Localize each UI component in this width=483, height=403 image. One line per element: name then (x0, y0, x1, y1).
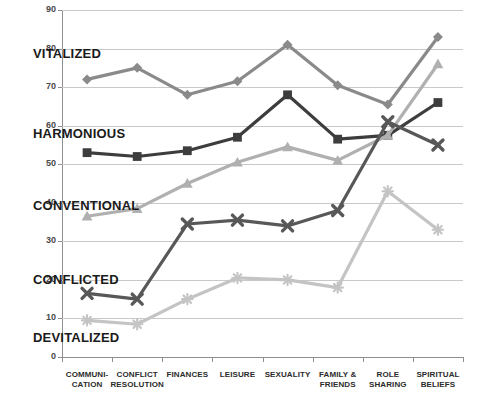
y-tick-label-90: 90 (0, 4, 56, 14)
x-tick-mark-8 (463, 357, 464, 362)
gridline-70 (62, 87, 463, 88)
x-tick-mark-2 (162, 357, 163, 362)
x-axis-label-7: SPIRITUALBELIEFS (402, 370, 474, 390)
gridline-30 (62, 241, 463, 242)
y-tick-label-50: 50 (0, 158, 56, 168)
y-tick-label-70: 70 (0, 81, 56, 91)
gridline-90 (62, 10, 463, 11)
y-axis-line (62, 10, 63, 357)
x-tick-mark-0 (62, 357, 63, 362)
y-tick-mark-30 (58, 241, 62, 242)
y-tick-label-10: 10 (0, 312, 56, 322)
gridline-20 (62, 280, 463, 281)
series-label-harmonious: HARMONIOUS (33, 126, 125, 141)
gridline-10 (62, 318, 463, 319)
x-tick-mark-4 (263, 357, 264, 362)
series-label-conflicted: CONFLICTED (33, 272, 119, 287)
gridline-50 (62, 164, 463, 165)
y-tick-mark-10 (58, 318, 62, 319)
x-tick-mark-6 (363, 357, 364, 362)
y-tick-mark-90 (58, 10, 62, 11)
x-tick-mark-5 (313, 357, 314, 362)
series-label-devitalized: DEVITALIZED (33, 330, 119, 345)
x-tick-mark-3 (212, 357, 213, 362)
x-tick-mark-1 (112, 357, 113, 362)
y-tick-mark-70 (58, 87, 62, 88)
x-tick-mark-7 (413, 357, 414, 362)
y-tick-mark-50 (58, 164, 62, 165)
series-label-vitalized: VITALIZED (33, 46, 101, 61)
couple-typology-line-chart: 0102030405060708090 COMMUNI-CATIONCONFLI… (0, 0, 483, 403)
series-label-conventional: CONVENTIONAL (33, 198, 139, 213)
gridline-80 (62, 49, 463, 50)
y-tick-label-0: 0 (0, 351, 56, 361)
y-tick-label-30: 30 (0, 235, 56, 245)
